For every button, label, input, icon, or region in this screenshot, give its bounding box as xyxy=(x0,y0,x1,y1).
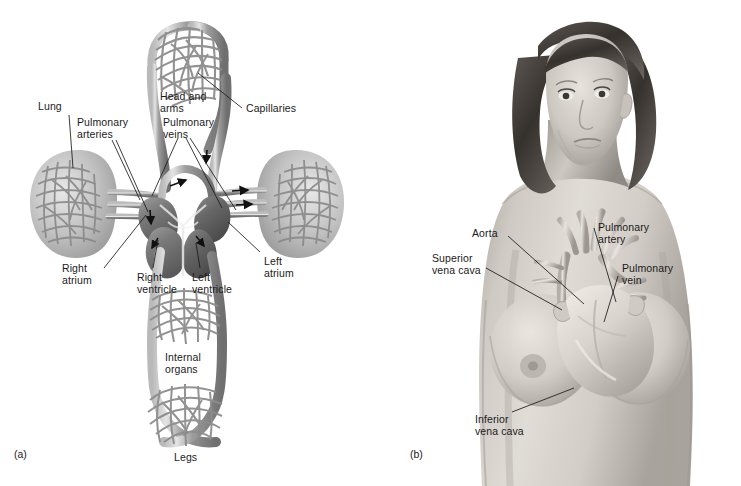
label-internal-organs: Internal organs xyxy=(165,352,201,375)
label-pulmonary-artery: Pulmonary artery xyxy=(598,222,649,245)
label-right-atrium: Right atrium xyxy=(62,263,92,286)
label-lung: Lung xyxy=(38,101,62,113)
label-left-atrium: Left atrium xyxy=(264,256,294,279)
label-pulmonary-veins: Pulmonary veins xyxy=(163,117,214,140)
label-legs: Legs xyxy=(174,452,197,464)
label-left-ventricle: Left ventricle xyxy=(192,272,232,295)
label-pulmonary-vein: Pulmonary vein xyxy=(622,263,673,286)
panel-b-thorax-anatomy: Aorta Superior vena cava Pulmonary arter… xyxy=(390,0,741,486)
label-head-and-arms: Head and arms xyxy=(160,91,206,114)
label-capillaries: Capillaries xyxy=(246,103,296,115)
label-inferior-vena-cava: Inferior vena cava xyxy=(475,414,524,437)
panel-a-tag: (a) xyxy=(14,448,27,460)
panel-b-artwork xyxy=(390,0,741,486)
capillary-bed-internal-organs xyxy=(150,288,220,344)
label-right-ventricle: Right ventricle xyxy=(137,272,177,295)
panel-a-schematic-circulation: Lung Pulmonary arteries Head and arms Pu… xyxy=(0,0,400,486)
flow-arrows-head xyxy=(206,150,207,163)
label-aorta: Aorta xyxy=(472,228,498,240)
panel-b-tag: (b) xyxy=(410,448,423,460)
label-superior-vena-cava: Superior vena cava xyxy=(432,253,481,276)
panel-a-artwork xyxy=(0,0,400,486)
lung-right xyxy=(214,150,344,258)
label-pulmonary-arteries: Pulmonary arteries xyxy=(77,117,128,140)
figure-circulatory-system: Lung Pulmonary arteries Head and arms Pu… xyxy=(0,0,741,486)
